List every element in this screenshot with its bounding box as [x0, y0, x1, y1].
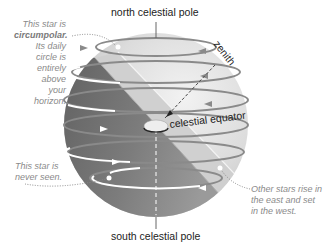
note-line: entirely above — [14, 63, 66, 85]
note-line: Its daily circle is — [14, 41, 66, 63]
circumpolar-star — [116, 45, 121, 50]
south-celestial-pole-label: south celestial pole — [111, 230, 200, 242]
note-line: This star is — [14, 19, 66, 30]
never-seen-note: This star is never seen. — [15, 161, 62, 183]
note-line: your horizon. — [14, 85, 66, 107]
observer-dome — [144, 120, 168, 132]
circumpolar-note: This star is circumpolar. Its daily circ… — [14, 19, 66, 107]
note-line: the east and set — [251, 195, 322, 206]
never-seen-star — [107, 176, 112, 181]
note-line: in the west. — [251, 206, 322, 217]
rise-set-note: Other stars rise in the east and set in … — [251, 184, 322, 217]
note-line: Other stars rise in — [251, 184, 322, 195]
rising-star — [218, 166, 223, 171]
note-line: This star is — [15, 161, 62, 172]
circumpolar-leader — [72, 34, 115, 45]
note-line: never seen. — [15, 172, 62, 183]
note-line-bold: circumpolar. — [14, 30, 68, 40]
north-celestial-pole-label: north celestial pole — [111, 6, 199, 18]
